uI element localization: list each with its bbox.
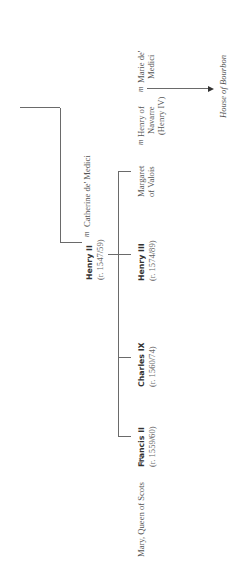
house-of-bourbon-label: House of Bourbon <box>218 55 228 118</box>
henry-ii-connector <box>60 242 82 243</box>
branch-charles-ix <box>118 357 131 358</box>
marriage-symbol-henry-navarre-marie: m <box>136 87 145 92</box>
ancestor-line-drop <box>60 108 61 243</box>
marie-label: Marie de' Medici <box>136 51 156 83</box>
marie-line1: Marie de' <box>136 51 146 83</box>
mary-name: Mary, Queen of Scots <box>136 482 146 557</box>
henry-ii-name: Henry II <box>85 245 94 280</box>
henry-navarre-line3: (Henry IV) <box>156 97 166 137</box>
marriage-symbol-henry-catherine: m <box>82 232 91 237</box>
mary-label: Mary, Queen of Scots <box>136 482 146 557</box>
bourbon-descent-line <box>147 88 209 89</box>
charles-ix-reign: (r. 1560/74) <box>147 342 157 387</box>
henry-iii-reign: (r. 1574/89) <box>147 240 157 281</box>
henry-navarre-line1: Henry of <box>136 97 146 137</box>
henry-iii-label: Henry III (r. 1574/89) <box>136 240 157 281</box>
margaret-line2: of Valois <box>146 166 156 197</box>
children-trunk <box>118 172 119 437</box>
charles-ix-name: Charles IX <box>137 342 146 387</box>
marie-line2: Medici <box>146 51 156 83</box>
charles-ix-label: Charles IX (r. 1560/74) <box>136 342 157 387</box>
house-of-bourbon-text: House of Bourbon <box>218 55 228 118</box>
branch-margaret <box>118 171 131 172</box>
branch-henry-iii <box>118 254 131 255</box>
margaret-label: Margaret of Valois <box>136 166 156 197</box>
henry-navarre-line2: Navarre <box>146 97 156 137</box>
marriage-symbol-mary-francis: m <box>136 458 145 463</box>
catherine-label: Catherine de' Medici <box>82 155 92 227</box>
family-tree-diagram: Henry II (r. 1547/59) m Catherine de' Me… <box>0 0 244 565</box>
henry-ii-reign: (r. 1547/59) <box>95 239 105 280</box>
henry-navarre-label: Henry of Navarre (Henry IV) <box>136 97 166 137</box>
henry-ii-label: Henry II (r. 1547/59) <box>84 239 105 280</box>
henry-iii-name: Henry III <box>137 243 146 281</box>
catherine-name: Catherine de' Medici <box>82 155 92 227</box>
marriage-symbol-margaret-henry-navarre: m <box>136 140 145 145</box>
branch-francis-ii <box>118 436 131 437</box>
margaret-line1: Margaret <box>136 166 146 197</box>
ancestor-line-top <box>20 107 60 108</box>
arrow-down-icon <box>208 87 214 93</box>
francis-ii-reign: (r. 1559/60) <box>147 426 157 467</box>
